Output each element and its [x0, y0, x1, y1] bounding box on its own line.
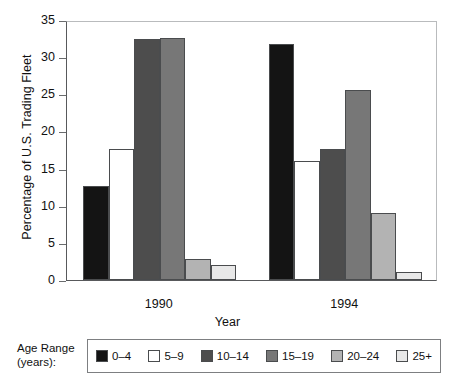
y-axis-tick-label: 0 [26, 274, 55, 287]
y-axis-tick [59, 95, 66, 96]
bar-1990-20-24 [185, 259, 211, 280]
legend-item-label: 10–14 [217, 350, 249, 362]
bar-chart-figure: Percentage of U.S. Trading Fleet 0510152… [0, 0, 455, 391]
y-axis-tick [59, 281, 66, 282]
y-axis-tick [59, 21, 66, 22]
bar-1994-10-14 [320, 149, 346, 280]
legend-item-label: 20–24 [347, 350, 379, 362]
legend-item[interactable]: 0–4 [96, 350, 131, 362]
legend-swatch-icon [148, 350, 160, 362]
x-axis-tick-label-1994: 1994 [304, 297, 384, 311]
bar-1990-15-19 [160, 38, 186, 280]
y-axis-tick-label: 10 [26, 200, 55, 213]
bar-1994-20-24 [371, 213, 397, 280]
legend-item[interactable]: 15–19 [266, 350, 314, 362]
legend-item[interactable]: 25+ [396, 350, 432, 362]
x-axis-title: Year [0, 315, 455, 329]
bar-1990-10-14 [134, 39, 160, 280]
legend-item-label: 0–4 [112, 350, 131, 362]
legend-item[interactable]: 10–14 [201, 350, 249, 362]
y-axis-tick [59, 244, 66, 245]
bar-1990-5-9 [109, 149, 135, 280]
legend-swatch-icon [396, 350, 408, 362]
y-axis-tick-label: 15 [26, 163, 55, 176]
y-axis-tick-label: 20 [26, 125, 55, 138]
legend-item-label: 5–9 [164, 350, 183, 362]
y-axis-tick [59, 58, 66, 59]
bar-1990-25+ [211, 265, 237, 280]
legend: 0–45–910–1415–1920–2425+ [87, 339, 441, 373]
legend-swatch-icon [266, 350, 278, 362]
plot-area [66, 21, 437, 281]
bar-1994-15-19 [345, 90, 371, 280]
legend-title: Age Range (years): [17, 341, 75, 369]
y-axis-tick-label: 35 [26, 14, 55, 27]
bar-1994-25+ [396, 272, 422, 280]
legend-swatch-icon [201, 350, 213, 362]
legend-swatch-icon [96, 350, 108, 362]
y-axis-tick-label: 25 [26, 88, 55, 101]
legend-item[interactable]: 5–9 [148, 350, 183, 362]
bar-1994-5-9 [294, 161, 320, 280]
x-axis-tick-label-1990: 1990 [119, 297, 199, 311]
y-axis-tick [59, 207, 66, 208]
legend-title-line-1: Age Range [17, 341, 75, 355]
y-axis-tick [59, 132, 66, 133]
legend-item[interactable]: 20–24 [331, 350, 379, 362]
y-axis-tick-label: 5 [26, 237, 55, 250]
legend-title-line-2: (years): [17, 355, 75, 369]
legend-item-label: 15–19 [282, 350, 314, 362]
legend-swatch-icon [331, 350, 343, 362]
bar-1994-0-4 [269, 44, 295, 280]
legend-item-label: 25+ [412, 350, 432, 362]
bar-1990-0-4 [83, 186, 109, 280]
y-axis-tick-label: 30 [26, 51, 55, 64]
y-axis-tick [59, 170, 66, 171]
